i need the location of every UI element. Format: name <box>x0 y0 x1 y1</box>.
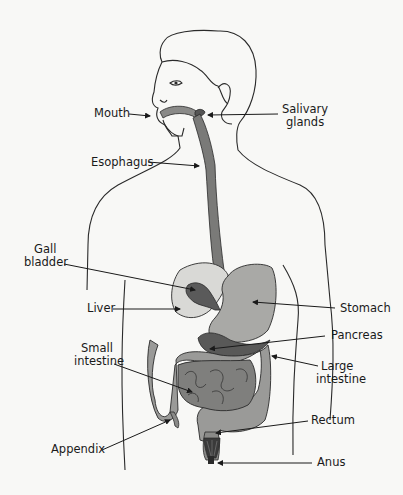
appendix-shape <box>170 412 179 428</box>
small-intestine-shape <box>178 360 256 411</box>
label-small-intestine-line2: intestine <box>74 355 124 368</box>
label-salivary-glands-line2: glands <box>286 116 324 129</box>
label-stomach: Stomach <box>340 302 391 315</box>
label-esophagus: Esophagus <box>91 156 154 169</box>
esophagus-shape <box>193 114 224 280</box>
label-rectum: Rectum <box>311 414 355 427</box>
label-liver: Liver <box>87 302 115 315</box>
label-pancreas: Pancreas <box>331 329 383 342</box>
label-large-intestine-line2: intestine <box>316 373 366 386</box>
label-anus: Anus <box>317 456 345 469</box>
label-appendix: Appendix <box>51 443 105 456</box>
label-gallbladder-line2: bladder <box>24 256 68 269</box>
label-mouth: Mouth <box>94 107 130 120</box>
